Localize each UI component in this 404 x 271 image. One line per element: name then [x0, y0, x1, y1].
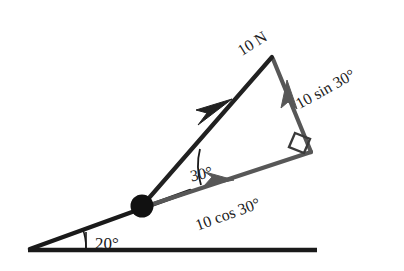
physics-diagram: 10 N 10 sin 30° 10 cos 30° 30° 20° — [0, 0, 404, 271]
force-diagram-svg — [0, 0, 404, 271]
angle-arc-30 — [198, 149, 201, 185]
ball-particle — [131, 195, 154, 218]
